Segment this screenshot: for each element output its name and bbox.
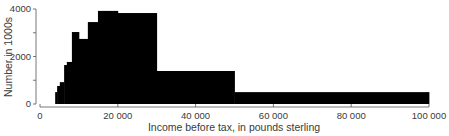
- income-histogram-chart: 020004000 020 00040 00060 00080 000100 0…: [0, 0, 449, 136]
- x-tick-label: 60 000: [259, 110, 288, 121]
- histogram-bar: [88, 22, 99, 104]
- x-tick-label: 40 000: [181, 110, 210, 121]
- x-axis: 020 00040 00060 00080 000100 000: [37, 104, 446, 121]
- x-tick-label: 100 000: [412, 110, 446, 121]
- histogram-bar: [72, 32, 79, 104]
- x-tick-label: 20 000: [103, 110, 132, 121]
- histogram-bar: [157, 71, 235, 104]
- y-axis-label: Number in 1000s: [2, 17, 14, 97]
- y-tick-label: 0: [26, 98, 31, 109]
- histogram-bar: [64, 65, 67, 104]
- histogram-bars: [55, 11, 429, 104]
- histogram-bar: [57, 86, 60, 104]
- x-tick-label: 0: [37, 110, 42, 121]
- y-tick-label: 4000: [10, 3, 31, 14]
- histogram-bar: [67, 62, 72, 104]
- histogram-bar: [98, 11, 118, 104]
- histogram-bar: [79, 39, 88, 104]
- histogram-bar: [235, 92, 430, 104]
- x-axis-label: Income before tax, in pounds sterling: [148, 121, 320, 133]
- histogram-bar: [60, 82, 65, 104]
- histogram-bar: [118, 13, 157, 104]
- x-tick-label: 80 000: [337, 110, 366, 121]
